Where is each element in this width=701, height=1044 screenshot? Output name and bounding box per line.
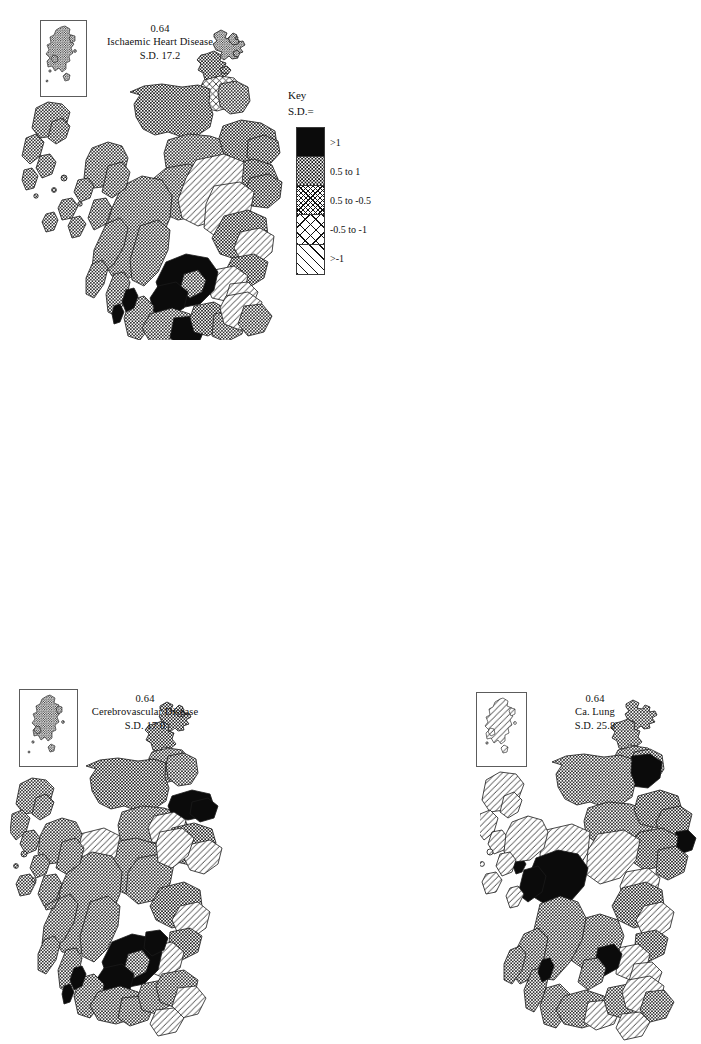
key-label-05-to-1: 0.5 to 1 (330, 166, 360, 177)
panel-disease-cvd: Cerebrovascular Disease (55, 705, 235, 718)
key-label-neg05-to-neg1: -0.5 to -1 (330, 224, 367, 235)
key-subtitle: S.D.= (288, 104, 388, 120)
key-swatch-05-to-neg05 (297, 186, 324, 215)
key-title: Key (288, 88, 388, 104)
key-label-gt1: >1 (330, 137, 341, 148)
panel-disease-ihd: Ischaemic Heart Disease (70, 35, 250, 48)
panel-value-cvd: 0.64 (55, 692, 235, 705)
key-swatch-column (296, 127, 325, 275)
key-label-column: >1 0.5 to 1 0.5 to -0.5 -0.5 to -1 >-1 (330, 127, 388, 273)
key-swatch-gt-neg1 (297, 245, 324, 274)
shetland-inset-lung (476, 692, 527, 767)
title-ischaemic-heart-disease: 0.64 Ischaemic Heart Disease S.D. 17.2 (70, 22, 250, 62)
key-swatch-neg05-to-neg1 (297, 215, 324, 244)
panel-ischaemic-heart-disease: 0.64 Ischaemic Heart Disease S.D. 17.2 (0, 0, 290, 340)
panel-ca-lung: 0.64 Ca. Lung S.D. 25.8 (235, 340, 470, 708)
panel-value-lung: 0.64 (525, 692, 665, 705)
key-swatch-05-to-1 (297, 157, 324, 186)
panel-cerebrovascular-disease: 0.64 Cerebrovascular Disease S.D. 17.0 (0, 340, 235, 708)
title-cerebrovascular-disease: 0.64 Cerebrovascular Disease S.D. 17.0 (55, 692, 235, 732)
key-swatch-gt1 (297, 128, 324, 157)
key-body: >1 0.5 to 1 0.5 to -0.5 -0.5 to -1 >-1 (288, 127, 388, 273)
key-label-05-to-neg05: 0.5 to -0.5 (330, 195, 371, 206)
key-label-gt-neg1: >-1 (330, 253, 344, 264)
panel-sd-lung: S.D. 25.8 (525, 719, 665, 732)
panel-sd-cvd: S.D. 17.0 (55, 719, 235, 732)
panel-disease-lung: Ca. Lung (525, 705, 665, 718)
title-ca-lung: 0.64 Ca. Lung S.D. 25.8 (525, 692, 665, 732)
key-legend: Key S.D.= >1 0.5 to 1 0.5 to -0.5 -0.5 t… (288, 88, 388, 273)
panel-value-ihd: 0.64 (70, 22, 250, 35)
panel-sd-ihd: S.D. 17.2 (70, 49, 250, 62)
